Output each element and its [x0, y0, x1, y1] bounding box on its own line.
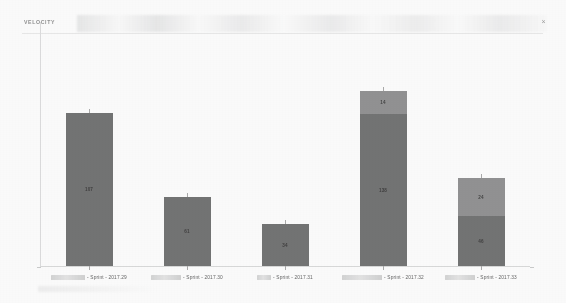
bar-segment-committed[interactable]: 138	[360, 114, 407, 266]
x-axis-label-text: - Sprint - 2017.29	[87, 275, 127, 280]
x-axis-labels: - Sprint - 2017.29- Sprint - 2017.30- Sp…	[40, 270, 530, 284]
bar-slot: 34	[236, 40, 334, 266]
bottom-scan-artifact	[38, 286, 158, 292]
redacted-label-prefix	[151, 275, 181, 280]
bar-stack[interactable]: 34	[262, 224, 309, 266]
x-axis-tick-end	[530, 267, 534, 268]
bar-stack[interactable]: 107	[66, 113, 113, 266]
bar-segment-committed[interactable]: 34	[262, 224, 309, 266]
x-axis-label: - Sprint - 2017.33	[432, 270, 530, 284]
x-axis-label: - Sprint - 2017.30	[138, 270, 236, 284]
bar-value-label: 61	[184, 229, 189, 234]
velocity-chart-panel: VELOCITY × 1076134141382446 - Sprint - 2…	[0, 0, 566, 303]
bar-slot: 14138	[334, 40, 432, 266]
bar-slot: 61	[138, 40, 236, 266]
chart-plot-area: 1076134141382446	[40, 40, 530, 267]
x-axis-label: - Sprint - 2017.32	[334, 270, 432, 284]
bar-segment-committed[interactable]: 107	[66, 113, 113, 266]
x-axis-label: - Sprint - 2017.29	[40, 270, 138, 284]
bar-stack[interactable]: 2446	[458, 178, 505, 266]
bar-segment-completed[interactable]: 24	[458, 178, 505, 216]
header-scan-artifact	[77, 15, 547, 32]
redacted-label-prefix	[342, 275, 382, 280]
bar-value-label: 46	[478, 239, 483, 244]
bar-value-label: 24	[478, 195, 483, 200]
bar-stack[interactable]: 14138	[360, 91, 407, 266]
bar-slot: 2446	[432, 40, 530, 266]
x-axis-label-text: - Sprint - 2017.31	[273, 275, 313, 280]
x-axis-tick-start	[37, 267, 41, 268]
header-divider	[22, 33, 543, 34]
bar-series-container: 1076134141382446	[40, 40, 530, 266]
bar-value-label: 107	[85, 187, 93, 192]
redacted-label-prefix	[51, 275, 85, 280]
close-icon[interactable]: ×	[539, 17, 548, 26]
redacted-label-prefix	[257, 275, 271, 280]
bar-segment-committed[interactable]: 46	[458, 216, 505, 266]
x-axis-label: - Sprint - 2017.31	[236, 270, 334, 284]
bar-segment-committed[interactable]: 61	[164, 197, 211, 266]
x-axis-label-text: - Sprint - 2017.33	[477, 275, 517, 280]
bar-segment-completed[interactable]: 14	[360, 91, 407, 114]
x-axis-label-text: - Sprint - 2017.32	[384, 275, 424, 280]
x-axis-label-text: - Sprint - 2017.30	[183, 275, 223, 280]
bar-value-label: 34	[282, 243, 287, 248]
bar-stack[interactable]: 61	[164, 197, 211, 266]
panel-header: VELOCITY	[22, 17, 542, 33]
bar-value-label: 14	[380, 100, 385, 105]
bar-slot: 107	[40, 40, 138, 266]
redacted-label-prefix	[445, 275, 475, 280]
bar-value-label: 138	[379, 188, 387, 193]
